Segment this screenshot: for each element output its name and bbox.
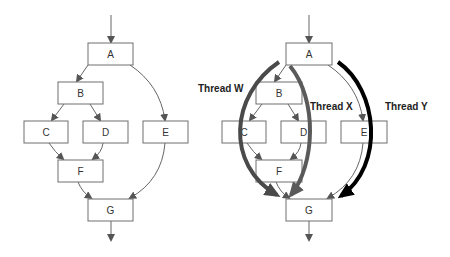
edge-a-b [77,65,88,81]
edge-d-f [93,143,103,159]
right-graph: A B C D E F G Thread W [198,15,428,240]
svg-text:E: E [361,127,368,138]
edge-e-g [328,143,363,198]
node-c: C [24,121,68,143]
control-flow-diagram: A B C D E F G [0,0,450,257]
svg-text:A: A [107,49,114,60]
edge-b-d [288,104,298,120]
thread-x-label: Thread X [310,101,353,112]
node-b: B [256,82,302,104]
edge-e-g [130,143,165,198]
node-f: F [256,160,302,182]
node-d: D [83,121,128,143]
edge-f-g [78,182,91,198]
svg-text:F: F [77,166,83,177]
node-a: A [286,43,332,65]
node-f: F [58,160,103,182]
svg-text:C: C [42,127,49,138]
node-g: G [286,199,332,221]
thread-w-label: Thread W [198,83,244,94]
svg-text:G: G [305,205,313,216]
node-a: A [88,43,133,65]
node-e: E [341,121,387,143]
left-graph: A B C D E F G [24,15,188,240]
edge-b-c [250,104,262,120]
svg-text:D: D [300,127,307,138]
edge-b-c [52,104,64,120]
edge-a-b [275,65,286,81]
edge-f-g [276,182,289,198]
edge-a-e [130,65,165,120]
edge-b-d [90,104,100,120]
svg-text:B: B [276,88,283,99]
svg-text:D: D [102,127,109,138]
svg-text:B: B [77,88,84,99]
thread-y-label: Thread Y [385,101,428,112]
node-d: D [281,121,326,143]
edge-c-f [247,143,261,159]
svg-text:F: F [276,166,282,177]
svg-text:G: G [107,205,115,216]
node-c: C [222,121,266,143]
svg-text:A: A [306,49,313,60]
node-b: B [58,82,103,104]
edge-d-f [291,143,301,159]
edge-c-f [49,143,63,159]
node-g: G [88,199,133,221]
node-e: E [143,121,188,143]
svg-text:E: E [162,127,169,138]
